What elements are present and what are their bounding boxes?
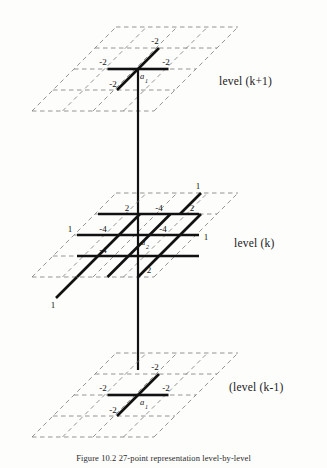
level-label-k-minus-1: (level (k-1) (229, 381, 283, 393)
weight-mid-left-outer: 1 (68, 224, 73, 234)
weight-mid-far-bottom-left: 1 (51, 300, 56, 310)
weight-mid-bottom-right: 2 (147, 265, 152, 275)
node-label-top: a (140, 71, 144, 81)
weight-mid-left-inner: -4 (99, 224, 107, 234)
node-subscript-bottom: 1 (145, 404, 148, 410)
weight-top-down-left: -2 (109, 79, 117, 89)
weight-mid-far-top-right: 1 (196, 181, 201, 191)
figure-caption: Figure 10.2 27-point representation leve… (0, 453, 327, 463)
weight-bottom-up-right: -2 (151, 362, 159, 372)
weight-top-left: -2 (99, 57, 107, 67)
plane-level-k-plus-1: -2 -2 -2 -2 a 1 (32, 27, 238, 205)
weight-mid-right-outer: 1 (204, 232, 209, 242)
weight-bottom-left: -2 (99, 383, 107, 393)
weight-mid-top-left: 2 (125, 203, 130, 213)
node-label-middle: a (141, 237, 145, 247)
weight-bottom-right: -2 (162, 383, 170, 393)
node-subscript-top: 1 (145, 78, 148, 84)
plane-level-k: 2 -4 2 1 -4 -4 1 -4 2 1 1 a 2 (32, 181, 238, 370)
weight-mid-top-middle: -4 (155, 203, 163, 213)
node-subscript-middle: 2 (146, 244, 149, 250)
node-label-bottom: a (140, 397, 144, 407)
level-label-k: level (k) (234, 237, 274, 249)
weight-top-up-right: -2 (151, 36, 159, 46)
figure-root: -2 -2 -2 -2 a 1 (0, 0, 327, 468)
plane-level-k-minus-1: -2 -2 -2 -2 a 1 (32, 353, 238, 437)
weight-top-right: -2 (162, 57, 170, 67)
stencil-diagram: -2 -2 -2 -2 a 1 (0, 0, 327, 468)
level-label-k-plus-1: level (k+1) (219, 75, 272, 87)
weight-bottom-down-left: -2 (109, 405, 117, 415)
weight-mid-right-inner: -4 (159, 224, 167, 234)
weight-mid-bottom-left-inner: -4 (99, 245, 107, 255)
weight-mid-top-right: 2 (190, 203, 195, 213)
